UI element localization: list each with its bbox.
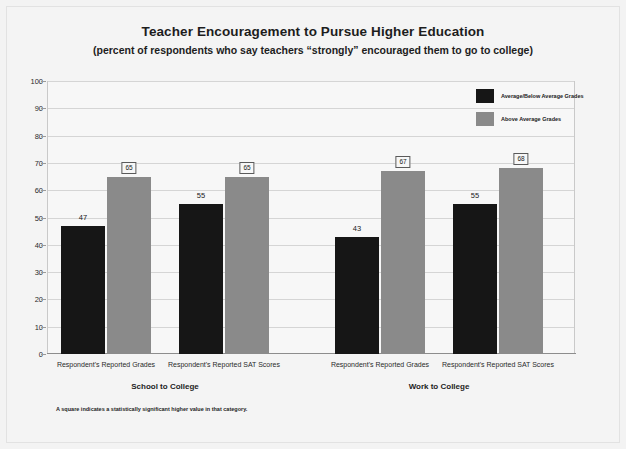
y-axis-tick-mark	[41, 272, 46, 273]
legend-swatch-icon	[476, 112, 494, 126]
bar-value-label-significant: 67	[395, 156, 410, 168]
bar-value-label: 55	[197, 191, 205, 200]
chart-page: Teacher Encouragement to Pursue Higher E…	[0, 0, 626, 449]
x-axis-group-labels: School to CollegeWork to College	[47, 382, 575, 398]
x-axis-category-label: Respondent's Reported Grades	[57, 361, 155, 368]
y-axis-tick-label: 100	[5, 77, 43, 86]
y-axis: 0102030405060708090100	[0, 81, 43, 354]
bar-value-label: 43	[353, 224, 361, 233]
y-axis-tick-label: 0	[5, 350, 43, 359]
y-axis-tick-mark	[41, 245, 46, 246]
y-axis-tick-mark	[41, 108, 46, 109]
bar	[499, 168, 543, 354]
x-axis-category-label: Respondent's Reported Grades	[331, 361, 429, 368]
legend-swatch-icon	[476, 89, 494, 103]
bar	[61, 226, 105, 354]
legend-item: Above Average Grades	[476, 112, 584, 126]
bar-value-label-significant: 68	[513, 153, 528, 165]
y-axis-tick-mark	[41, 163, 46, 164]
y-axis-tick-label: 40	[5, 240, 43, 249]
bar	[381, 171, 425, 354]
bar-value-label-significant: 65	[121, 162, 136, 174]
y-axis-tick-mark	[41, 299, 46, 300]
y-axis-tick-label: 60	[5, 186, 43, 195]
y-axis-tick-label: 30	[5, 268, 43, 277]
bar-value-label: 47	[79, 213, 87, 222]
x-axis-group-label: Work to College	[409, 382, 470, 391]
y-axis-tick-mark	[41, 354, 46, 355]
y-axis-tick-mark	[41, 190, 46, 191]
chart-subtitle: (percent of respondents who say teachers…	[0, 43, 626, 58]
x-axis-category-label: Respondent's Reported SAT Scores	[442, 361, 554, 368]
y-axis-tick-mark	[41, 81, 46, 82]
bar	[107, 177, 151, 354]
x-axis-category-labels: Respondent's Reported GradesRespondent's…	[47, 361, 575, 379]
y-axis-tick-label: 20	[5, 295, 43, 304]
bar	[179, 204, 223, 354]
title-block: Teacher Encouragement to Pursue Higher E…	[0, 23, 626, 58]
y-axis-tick-mark	[41, 136, 46, 137]
y-axis-tick-label: 10	[5, 322, 43, 331]
bar-value-label: 55	[471, 191, 479, 200]
legend-item: Average/Below Average Grades	[476, 89, 584, 103]
bar	[335, 237, 379, 354]
y-axis-tick-label: 90	[5, 104, 43, 113]
y-axis-tick-label: 50	[5, 213, 43, 222]
bar	[453, 204, 497, 354]
x-axis-category-label: Respondent's Reported SAT Scores	[168, 361, 280, 368]
page-title: Teacher Encouragement to Pursue Higher E…	[0, 23, 626, 40]
bar	[225, 177, 269, 354]
chart-legend: Average/Below Average Grades Above Avera…	[476, 89, 584, 135]
x-axis-group-label: School to College	[131, 382, 199, 391]
y-axis-tick-label: 70	[5, 158, 43, 167]
y-axis-tick-mark	[41, 218, 46, 219]
legend-item-label: Average/Below Average Grades	[501, 93, 584, 99]
y-axis-tick-mark	[41, 327, 46, 328]
bar-value-label-significant: 65	[239, 162, 254, 174]
legend-item-label: Above Average Grades	[501, 116, 561, 122]
chart-footnote: A square indicates a statistically signi…	[56, 406, 247, 412]
y-axis-tick-label: 80	[5, 131, 43, 140]
